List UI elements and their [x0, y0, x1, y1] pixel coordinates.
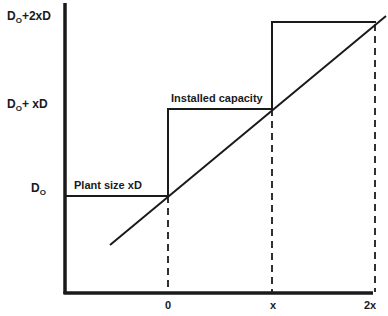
- installed-capacity-label: Installed capacity: [171, 92, 264, 104]
- demand-trend-line: [110, 16, 386, 245]
- capacity-diagram: DO+2xD DO+ xD DO Plant size xD Installed…: [0, 0, 388, 316]
- x-label-2x: 2x: [364, 299, 377, 311]
- x-label-0: 0: [165, 299, 171, 311]
- y-label-d0-xd: DO+ xD: [7, 97, 48, 113]
- y-label-d0-2xd: DO+2xD: [7, 9, 51, 25]
- y-label-d0: DO: [31, 181, 46, 197]
- x-label-x: x: [270, 299, 277, 311]
- plant-size-label: Plant size xD: [74, 179, 142, 191]
- installed-capacity-step: [65, 22, 376, 196]
